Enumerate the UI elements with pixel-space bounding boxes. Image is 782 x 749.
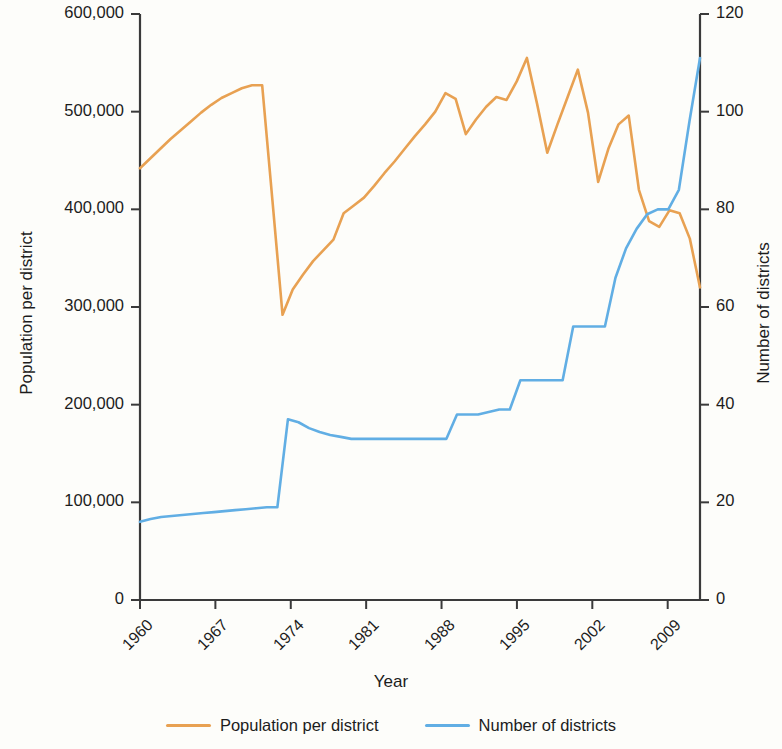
y-tick-label-left: 500,000 (0, 101, 124, 120)
y-tick-label-right: 20 (716, 491, 734, 510)
chart-axes (131, 14, 709, 609)
y-tick-label-right: 100 (716, 101, 744, 120)
y-tick-label-right: 80 (716, 198, 734, 217)
y-tick-label-left: 200,000 (0, 394, 124, 413)
y-tick-label-left: 600,000 (0, 3, 124, 22)
y-tick-label-right: 0 (716, 589, 725, 608)
y-tick-label-right: 60 (716, 296, 734, 315)
line-chart: Population per district Number of distri… (0, 0, 782, 749)
legend-swatch-districts (425, 724, 470, 728)
chart-series (140, 58, 700, 522)
y-tick-label-left: 400,000 (0, 198, 124, 217)
y-tick-label-right: 40 (716, 394, 734, 413)
x-axis-title: Year (0, 672, 782, 692)
legend-swatch-population (166, 724, 211, 728)
legend-item-population: Population per district (166, 716, 379, 735)
legend-label-districts: Number of districts (479, 716, 617, 735)
legend-label-population: Population per district (220, 716, 379, 735)
y-tick-label-left: 300,000 (0, 296, 124, 315)
y-tick-label-right: 120 (716, 3, 744, 22)
chart-legend: Population per district Number of distri… (0, 716, 782, 735)
y-axis-right-title: Number of districts (754, 193, 774, 433)
legend-item-districts: Number of districts (425, 716, 617, 735)
y-tick-label-left: 100,000 (0, 491, 124, 510)
y-tick-label-left: 0 (0, 589, 124, 608)
